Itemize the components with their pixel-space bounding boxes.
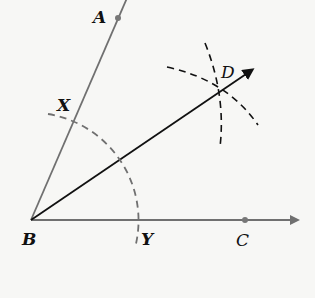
point-a-dot — [115, 15, 121, 21]
label-x: X — [56, 95, 71, 115]
arc-xy — [48, 114, 139, 248]
arc-from-y — [205, 43, 221, 147]
label-b: B — [21, 229, 36, 249]
label-a: A — [91, 7, 106, 27]
label-c: C — [236, 230, 249, 250]
label-y: Y — [141, 229, 155, 249]
label-d: D — [220, 62, 235, 82]
angle-bisector-diagram: A B C D X Y — [0, 0, 315, 298]
point-c-dot — [242, 217, 248, 223]
